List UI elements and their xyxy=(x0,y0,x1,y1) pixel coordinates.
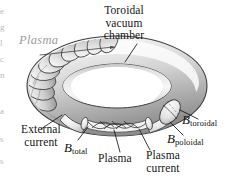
page-edge-fragment: g xyxy=(0,22,8,32)
page-edge-fragment: s xyxy=(0,134,8,144)
plasma-bottom-label: Plasma xyxy=(98,152,132,165)
b-poloidal-symbol: B xyxy=(167,131,175,146)
b-toroidal-subscript: toroidal xyxy=(190,118,217,128)
plasma-current-line2: current xyxy=(136,162,190,175)
b-total-symbol: B xyxy=(64,140,72,155)
page-edge-fragment: s xyxy=(0,156,8,166)
page-edge-fragment: a xyxy=(0,106,8,116)
b-poloidal-label: Bpoloidal xyxy=(167,131,204,147)
tokamak-figure: Toroidal vacuum chamber Plasma External … xyxy=(0,0,234,178)
page-edge-fragment: c xyxy=(0,54,8,64)
b-total-subscript: total xyxy=(72,146,88,156)
b-total-label: Btotal xyxy=(64,140,88,156)
toroidal-label-line2: vacuum xyxy=(93,17,155,30)
plasma-ghost-label: Plasma xyxy=(19,33,58,48)
plasma-current-line1: Plasma xyxy=(136,149,190,162)
plasma-current-label: Plasma current xyxy=(136,149,190,174)
page-edge-fragment: l xyxy=(0,38,8,48)
b-poloidal-subscript: poloidal xyxy=(175,137,204,147)
toroidal-label-line3: chamber xyxy=(93,29,155,42)
b-toroidal-label: Btoroidal xyxy=(182,112,217,128)
external-current-line1: External xyxy=(8,123,74,136)
toroidal-label-line1: Toroidal xyxy=(93,4,155,17)
toroidal-vacuum-chamber-label: Toroidal vacuum chamber xyxy=(93,4,155,42)
b-toroidal-symbol: B xyxy=(182,112,190,127)
page-edge-fragment: n xyxy=(0,70,8,80)
page-edge-fragment: e xyxy=(0,6,8,16)
